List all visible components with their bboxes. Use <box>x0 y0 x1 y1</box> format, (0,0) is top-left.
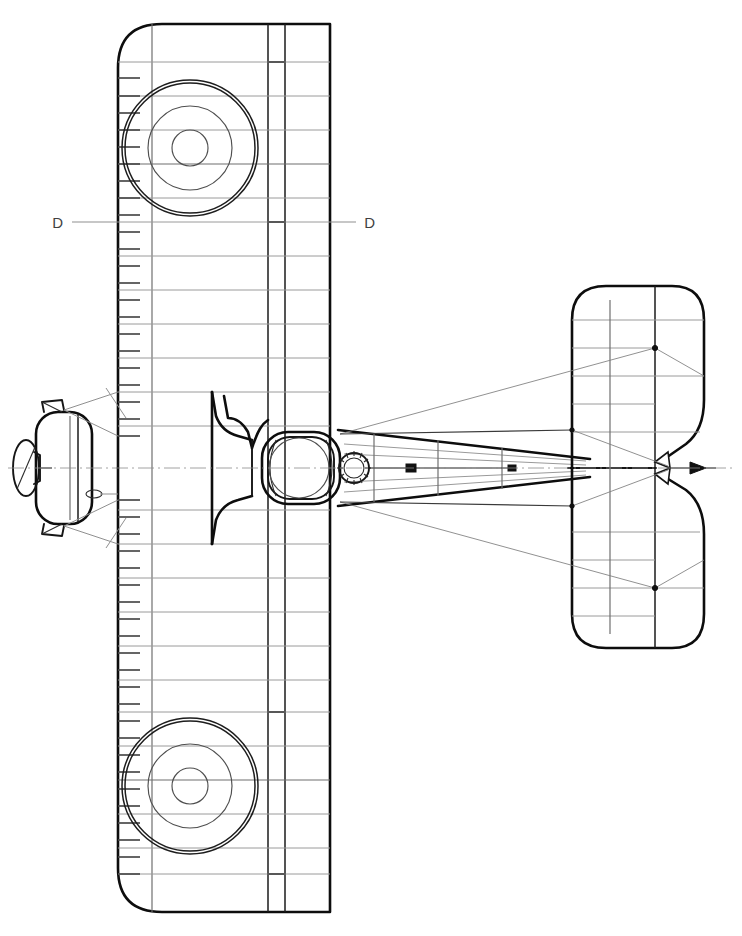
drawing-sheet: D D <box>0 0 742 936</box>
section-label-right: D <box>364 214 375 231</box>
biplane-plan-view-svg: D D <box>0 0 742 936</box>
section-label-left: D <box>52 214 63 231</box>
